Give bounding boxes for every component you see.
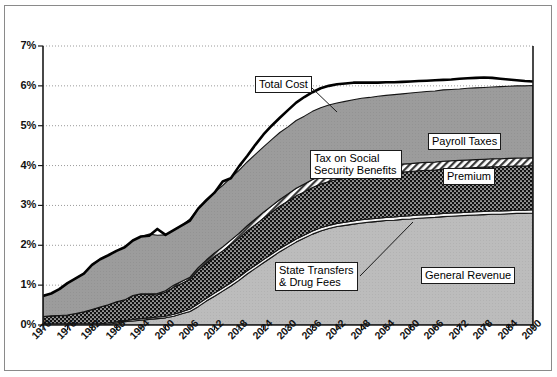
callout-state-line1: State Transfers (279, 264, 354, 276)
callout-total-cost: Total Cost (255, 76, 312, 93)
callout-general-revenue: General Revenue (421, 267, 515, 284)
callout-payroll-taxes-label: Payroll Taxes (432, 135, 497, 147)
y-axis-tick-label: 0% (8, 318, 36, 330)
callout-premium-label: Premium (447, 170, 491, 182)
chart-figure: 7%6%5%4%3%2%1%0% 19701976198219881994200… (0, 0, 557, 377)
y-axis-tick-label: 3% (8, 198, 36, 210)
y-axis-tick-label: 2% (8, 238, 36, 250)
y-axis-tick-label: 1% (8, 278, 36, 290)
callout-payroll-taxes: Payroll Taxes (428, 133, 501, 150)
callout-tax-social-security-benefits: Tax on Social Security Benefits (310, 150, 402, 179)
callout-total-cost-label: Total Cost (259, 78, 308, 90)
callout-state-line2: & Drug Fees (279, 276, 354, 288)
callout-tax-ssb-line2: Security Benefits (314, 164, 398, 176)
callout-general-revenue-label: General Revenue (425, 269, 511, 281)
y-axis-tick-label: 5% (8, 119, 36, 131)
y-axis-tick-label: 4% (8, 159, 36, 171)
stacked-area-chart (0, 0, 557, 377)
y-axis-tick-label: 6% (8, 79, 36, 91)
callout-tax-ssb-line1: Tax on Social (314, 152, 398, 164)
callout-state-transfers-drug-fees: State Transfers & Drug Fees (275, 262, 358, 291)
y-axis-tick-label: 7% (8, 39, 36, 51)
callout-premium: Premium (443, 168, 495, 185)
